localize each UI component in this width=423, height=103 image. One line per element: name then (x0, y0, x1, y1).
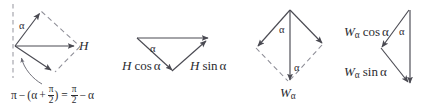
formula-minus-2: − (78, 89, 89, 101)
vector-diagram-figure: α H π−(α+π2)=π2−α α Hcosα Hsinα α α Wα α… (0, 0, 423, 103)
panel-4-cos-vector-subscript: α (355, 30, 360, 40)
panel-2-angle-label: α (150, 44, 156, 55)
panel-2-cos-vector-symbol: H (122, 58, 131, 73)
panel-3-resultant-label: Wα (280, 86, 296, 102)
panel-1-formula: π−(α+π2)=π2−α (11, 85, 94, 103)
panel-2-sin-component-label: Hsinα (190, 59, 226, 72)
panel-4-cos-component-label: Wαcosα (344, 25, 389, 41)
panel-1-graphics (13, 4, 80, 84)
panel-4-cos-trig: cos (363, 24, 380, 39)
formula-plus: + (37, 89, 48, 101)
panel-2-cos-trig: cos (134, 58, 151, 73)
formula-equals: = (58, 89, 71, 101)
panel-3-angle-label-top: α (279, 25, 285, 36)
panel-2-cos-angle: α (154, 58, 161, 73)
panel-4-sin-component-label: Wαsinα (344, 65, 387, 81)
panel-3-right-vector (290, 10, 322, 43)
panel-2-cos-component-label: Hcosα (122, 59, 161, 72)
panel-3-left-vector (258, 10, 290, 46)
panel-3-graphics (256, 10, 322, 81)
panel-2-sin-trig: sin (202, 58, 217, 73)
panel-1-angle-label: α (19, 21, 25, 32)
panel-4-sin-vector-symbol: W (344, 64, 355, 79)
panel-4-sin-trig: sin (363, 64, 378, 79)
panel-1-dashed-upper-right (42, 12, 81, 47)
panel-3-resultant-symbol: W (280, 85, 291, 100)
panel-4-cos-angle: α (382, 24, 389, 39)
formula-minus-1: − (17, 89, 28, 101)
panel-1-dashed-lower-right (55, 47, 80, 73)
panel-2-sin-angle: α (220, 58, 227, 73)
formula-alpha-2: α (88, 89, 94, 101)
formula-pi-1: π (11, 89, 17, 101)
formula-fraction-2: π2 (71, 85, 78, 103)
panel-2-sin-vector-symbol: H (190, 58, 199, 73)
panel-3-angle-label-bottom: α (294, 63, 300, 74)
panel-4-angle-label: α (399, 27, 405, 38)
panel-4-cos-vector-symbol: W (344, 24, 355, 39)
panel-1-lower-vector (15, 46, 51, 70)
panel-4-sin-vector-subscript: α (355, 70, 360, 80)
formula-fraction-2-denominator: 2 (71, 96, 78, 103)
panel-3-resultant-subscript: α (291, 91, 296, 101)
panel-1-resultant-label: H (79, 39, 88, 52)
panel-3-dashed-left-bottom (256, 48, 288, 81)
panel-4-sin-angle: α (380, 64, 387, 79)
